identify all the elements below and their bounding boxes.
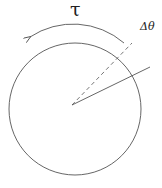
delta-theta-label: Δθ xyxy=(140,20,155,33)
torque-label: τ xyxy=(70,0,81,20)
torque-diagram: τ Δθ xyxy=(0,0,162,188)
solid-radius-line xyxy=(72,67,150,105)
dashed-radius-line xyxy=(72,43,132,105)
diagram-canvas xyxy=(0,0,162,188)
wheel-circle xyxy=(9,43,141,175)
torque-arrow-arc xyxy=(30,24,124,43)
